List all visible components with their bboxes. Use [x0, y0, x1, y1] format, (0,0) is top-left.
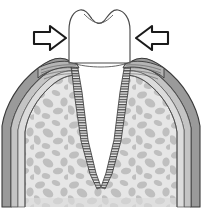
- dental-cross-section-figure: [0, 0, 202, 213]
- dental-diagram-svg: [0, 0, 202, 213]
